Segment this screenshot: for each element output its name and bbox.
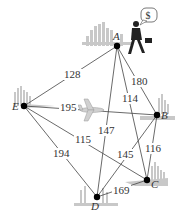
graph-canvas: $ 128180114147195115194145116169 ABCDE	[0, 0, 184, 222]
edge-weight-label: 180	[131, 75, 148, 87]
edge-weight-label: 115	[75, 133, 92, 145]
airplane-icon	[78, 99, 104, 121]
edge-weight-label: 195	[60, 101, 77, 113]
vertex-a	[114, 43, 120, 49]
dollar-sign: $	[146, 10, 151, 21]
edge-weight-label: 147	[98, 124, 115, 136]
edge-weight-label: 194	[53, 147, 70, 159]
speech-bubble: $	[140, 8, 157, 25]
graph-diagram: $ 128180114147195115194145116169 ABCDE	[0, 0, 184, 222]
edge-weight-label: 169	[113, 184, 130, 196]
vertex-label: B	[161, 109, 168, 121]
vertex-label: D	[90, 200, 99, 212]
vertex-c	[144, 177, 150, 183]
vertex-label: C	[151, 178, 159, 190]
edge-weight-label: 145	[117, 148, 134, 160]
edge-weight-label: 128	[64, 68, 81, 80]
vertex-label: E	[11, 100, 19, 112]
vertex-e	[21, 103, 27, 109]
edge-group	[24, 46, 157, 197]
vertex-b	[154, 112, 160, 118]
vertex-label: A	[112, 30, 120, 42]
edge-weight-label: 114	[122, 92, 139, 104]
edge-weight-label: 116	[145, 142, 162, 154]
businessman-icon	[128, 21, 152, 54]
